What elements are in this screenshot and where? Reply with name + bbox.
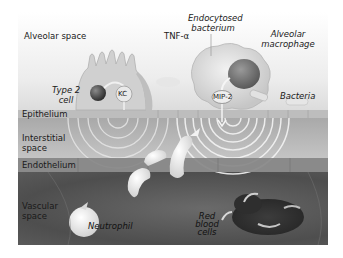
alveolar-macrophage-label: Alveolar macrophage: [258, 29, 318, 49]
interstitial-space-label: Interstitial space: [22, 133, 65, 153]
endocytosed-bacterium-label: Endocytosed bacterium: [188, 13, 238, 33]
bacteria-label: Bacteria: [280, 91, 315, 101]
alveolar-immune-diagram: Alveolar space TNF-α Endocytosed bacteri…: [18, 12, 328, 245]
mip2-label: MIP-2: [213, 92, 232, 102]
endothelium-label: Endothelium: [22, 160, 76, 170]
red-blood-cells-label: Red blood cells: [193, 212, 221, 236]
neutrophil-label: Neutrophil: [88, 221, 133, 231]
epithelium-label: Epithelium: [22, 109, 67, 119]
type2-cell-label: Type 2 cell: [52, 85, 80, 105]
alveolar-space-label: Alveolar space: [24, 31, 86, 41]
red-blood-cells: [222, 194, 304, 235]
kc-label: KC: [118, 89, 127, 99]
tnf-alpha-label: TNF-α: [164, 31, 189, 41]
vascular-space-label: Vascular space: [22, 201, 58, 221]
